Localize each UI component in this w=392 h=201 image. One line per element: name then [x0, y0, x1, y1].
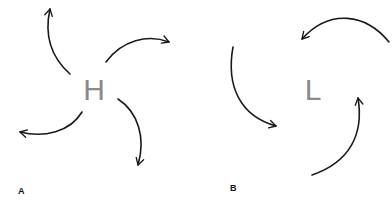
panel-a-high-pressure: H A [18, 9, 169, 196]
high-pressure-symbol: H [83, 73, 105, 106]
low-pressure-symbol: L [305, 73, 322, 106]
pressure-system-diagram: H A L B [0, 0, 392, 201]
arrow-outflow-down-left-icon [20, 112, 82, 134]
panel-b-low-pressure: L B [230, 18, 389, 193]
arrow-inflow-left-icon [231, 47, 276, 126]
arrow-inflow-bottom-right-icon [312, 98, 359, 175]
panel-label-b: B [230, 183, 237, 193]
arrow-inflow-top-icon [302, 18, 389, 42]
arrow-outflow-down-right-icon [118, 99, 141, 165]
panel-label-a: A [18, 186, 25, 196]
arrow-outflow-up-left-icon [48, 9, 70, 74]
arrow-outflow-up-right-icon [106, 39, 169, 62]
